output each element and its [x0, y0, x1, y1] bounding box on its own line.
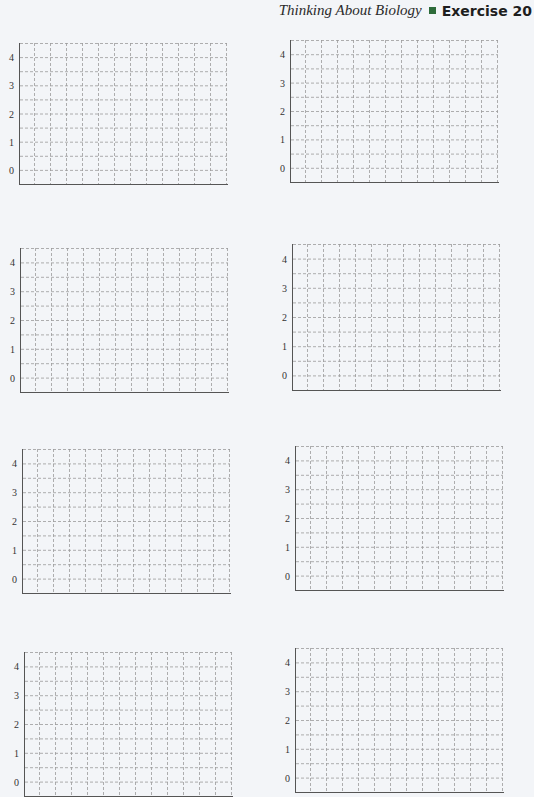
running-head: Thinking About Biology Exercise 20: [279, 2, 532, 19]
y-tick-label: 2: [275, 312, 287, 323]
y-tick-label: 4: [278, 455, 290, 466]
dashed-grid: [295, 648, 503, 792]
y-tick-label: 0: [273, 162, 285, 173]
dashed-grid: [24, 652, 232, 796]
y-tick-label: 3: [278, 686, 290, 697]
dashed-grid: [295, 446, 503, 590]
exercise-label: Exercise 20: [442, 3, 532, 19]
y-tick-label: 1: [278, 541, 290, 552]
y-tick-label: 2: [7, 719, 19, 730]
y-tick-label: 0: [3, 372, 15, 383]
y-tick-label: 4: [2, 52, 14, 63]
blank-graph-4: 43210: [292, 244, 500, 390]
y-tick-label: 1: [275, 341, 287, 352]
y-tick-label: 3: [3, 286, 15, 297]
dashed-grid: [19, 43, 227, 184]
y-tick-label: 2: [273, 106, 285, 117]
y-tick-label: 1: [278, 743, 290, 754]
dashed-grid: [292, 244, 500, 390]
y-tick-label: 4: [7, 661, 19, 672]
y-tick-label: 0: [275, 370, 287, 381]
y-tick-label: 1: [273, 134, 285, 145]
book-title: Thinking About Biology: [279, 2, 422, 19]
y-tick-label: 2: [2, 108, 14, 119]
dashed-grid: [20, 248, 228, 392]
y-tick-label: 2: [278, 715, 290, 726]
y-tick-label: 4: [5, 458, 17, 469]
y-tick-label: 2: [278, 513, 290, 524]
blank-graph-1: 43210: [19, 43, 227, 184]
y-tick-label: 3: [278, 484, 290, 495]
blank-graph-8: 43210: [295, 648, 503, 792]
blank-graph-3: 43210: [20, 248, 228, 392]
y-tick-label: 0: [7, 776, 19, 787]
y-tick-label: 0: [278, 570, 290, 581]
y-tick-label: 3: [5, 487, 17, 498]
y-tick-label: 1: [2, 136, 14, 147]
y-tick-label: 4: [3, 257, 15, 268]
y-tick-label: 3: [273, 77, 285, 88]
dashed-grid: [22, 449, 230, 593]
y-tick-label: 1: [3, 343, 15, 354]
y-tick-label: 2: [5, 516, 17, 527]
y-tick-label: 0: [2, 164, 14, 175]
y-tick-label: 4: [278, 657, 290, 668]
y-tick-label: 1: [7, 747, 19, 758]
blank-graph-6: 43210: [295, 446, 503, 590]
y-tick-label: 0: [278, 772, 290, 783]
y-tick-label: 2: [3, 315, 15, 326]
blank-graph-7: 43210: [24, 652, 232, 796]
bullet-square-icon: [429, 7, 436, 14]
y-tick-label: 3: [2, 80, 14, 91]
y-tick-label: 3: [7, 690, 19, 701]
y-tick-label: 4: [275, 253, 287, 264]
y-tick-label: 0: [5, 573, 17, 584]
dashed-grid: [290, 40, 498, 182]
blank-graph-5: 43210: [22, 449, 230, 593]
blank-graph-2: 43210: [290, 40, 498, 182]
y-tick-label: 4: [273, 49, 285, 60]
y-tick-label: 1: [5, 544, 17, 555]
y-tick-label: 3: [275, 282, 287, 293]
